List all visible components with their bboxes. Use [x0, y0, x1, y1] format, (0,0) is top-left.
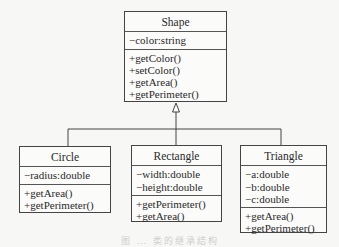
attribute: −c:double: [245, 193, 322, 205]
method: +getArea(): [129, 76, 222, 88]
method: +getColor(): [129, 52, 222, 64]
uml-diagram: Shape −color:string +getColor() +setColo…: [0, 0, 339, 247]
attributes-compartment: −a:double −b:double −c:double: [241, 165, 326, 207]
attribute: −color:string: [129, 34, 222, 46]
class-name: Rectangle: [132, 146, 221, 165]
attribute: −b:double: [245, 181, 322, 193]
class-name: Triangle: [241, 146, 326, 165]
methods-compartment: +getArea() +getPerimeter(): [20, 184, 110, 214]
class-shape: Shape −color:string +getColor() +setColo…: [124, 11, 227, 102]
generalization-arrowhead-icon: [173, 103, 180, 112]
methods-compartment: +getColor() +setColor() +getArea() +getP…: [125, 49, 226, 103]
class-name: Circle: [20, 147, 110, 166]
attribute: −a:double: [245, 168, 322, 180]
method: +setColor(): [129, 64, 222, 76]
method: +getArea(): [24, 187, 106, 199]
attributes-compartment: −radius:double: [20, 166, 110, 183]
method: +getPerimeter(): [24, 199, 106, 211]
method: +getPerimeter(): [136, 198, 217, 210]
methods-compartment: +getArea() +getPerimeter(): [241, 207, 326, 237]
method: +getPerimeter(): [129, 88, 222, 100]
method: +getPerimeter(): [245, 222, 322, 234]
methods-compartment: +getPerimeter() +getArea(): [132, 195, 221, 225]
class-circle: Circle −radius:double +getArea() +getPer…: [19, 146, 111, 213]
attributes-compartment: −color:string: [125, 31, 226, 48]
attribute: −radius:double: [24, 169, 106, 181]
attributes-compartment: −width:double −height:double: [132, 165, 221, 195]
method: +getArea(): [245, 210, 322, 222]
attribute: −width:double: [136, 168, 217, 180]
attribute: −height:double: [136, 181, 217, 193]
class-rectangle: Rectangle −width:double −height:double +…: [131, 145, 222, 222]
class-name: Shape: [125, 12, 226, 31]
method: +getArea(): [136, 210, 217, 222]
figure-caption: 图 … 类的继承结构: [100, 234, 240, 247]
class-triangle: Triangle −a:double −b:double −c:double +…: [240, 145, 327, 233]
